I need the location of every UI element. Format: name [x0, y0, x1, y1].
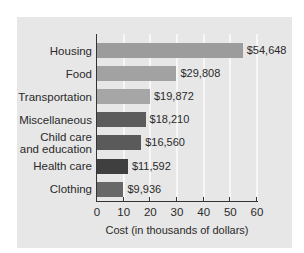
gridline — [229, 34, 231, 201]
x-tick-label: 60 — [242, 206, 272, 218]
bar — [97, 159, 128, 174]
x-tick — [256, 197, 257, 201]
category-label: Miscellaneous — [19, 114, 92, 126]
x-tick — [176, 197, 177, 201]
category-label: Housing — [50, 45, 92, 57]
x-tick-label: 30 — [162, 206, 192, 218]
bar-value-label: $16,560 — [145, 135, 185, 150]
bar-value-label: $54,648 — [247, 43, 287, 58]
bar — [97, 89, 150, 104]
gridline — [203, 34, 205, 201]
category-label: Health care — [33, 160, 92, 172]
bar-value-label: $18,210 — [150, 112, 190, 127]
bar-value-label: $9,936 — [127, 182, 161, 197]
x-tick — [229, 197, 230, 201]
x-tick-label: 20 — [135, 206, 165, 218]
bar — [97, 66, 176, 81]
bar — [97, 43, 243, 58]
category-label: Transportation — [18, 91, 92, 103]
x-axis-title: Cost (in thousands of dollars) — [97, 224, 257, 236]
category-label: Food — [66, 68, 92, 80]
bar-value-label: $29,808 — [180, 66, 220, 81]
category-label: Child careand education — [20, 131, 92, 155]
x-axis-line — [96, 201, 258, 202]
x-tick — [203, 197, 204, 201]
x-tick-label: 40 — [189, 206, 219, 218]
x-tick-label: 10 — [109, 206, 139, 218]
bar — [97, 135, 141, 150]
bar-value-label: $19,872 — [154, 89, 194, 104]
x-tick — [149, 197, 150, 201]
bar-value-label: $11,592 — [132, 159, 171, 174]
bar — [97, 112, 146, 127]
bar — [97, 182, 123, 197]
x-tick — [123, 197, 124, 201]
x-tick-label: 50 — [215, 206, 245, 218]
x-tick — [96, 197, 97, 201]
gridline — [256, 34, 258, 201]
y-axis-line — [96, 34, 97, 202]
x-tick-label: 0 — [82, 206, 112, 218]
category-label: Clothing — [50, 183, 92, 195]
